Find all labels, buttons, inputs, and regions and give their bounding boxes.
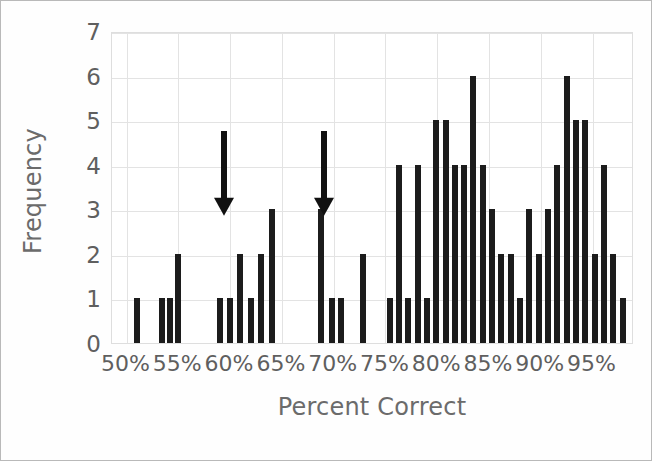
gridline-vertical xyxy=(385,33,386,343)
y-axis-tick-label: 4 xyxy=(71,154,101,177)
x-axis-tick-label: 50% xyxy=(101,353,150,375)
histogram-bar xyxy=(433,120,439,343)
histogram-bar xyxy=(338,298,344,343)
gridline-horizontal xyxy=(112,122,632,123)
histogram-bar xyxy=(318,209,324,343)
histogram-bar xyxy=(498,254,504,343)
y-axis-tick-labels: 01234567 xyxy=(57,1,101,461)
gridline-horizontal xyxy=(112,78,632,79)
histogram-bar xyxy=(508,254,514,343)
histogram-bar xyxy=(443,120,449,343)
histogram-bar xyxy=(175,254,181,343)
histogram-bar xyxy=(360,254,366,343)
histogram-bar xyxy=(329,298,335,343)
histogram-bar xyxy=(396,165,402,343)
histogram-bar xyxy=(387,298,393,343)
histogram-bar xyxy=(545,209,551,343)
histogram-bar xyxy=(554,165,560,343)
y-axis-tick-label: 3 xyxy=(71,199,101,222)
x-axis-title: Percent Correct xyxy=(111,393,633,421)
histogram-bar xyxy=(248,298,254,343)
chart-figure: Frequency Percent Correct 01234567 50%55… xyxy=(0,0,652,461)
histogram-bar xyxy=(159,298,165,343)
histogram-bar xyxy=(610,254,616,343)
y-axis-tick-label: 7 xyxy=(71,21,101,44)
histogram-bar xyxy=(573,120,579,343)
histogram-bar xyxy=(227,298,233,343)
histogram-bar xyxy=(461,165,467,343)
histogram-bar xyxy=(601,165,607,343)
y-axis-title: Frequency xyxy=(19,51,47,331)
histogram-bar xyxy=(424,298,430,343)
gridline-vertical xyxy=(282,33,283,343)
x-axis-tick-label: 65% xyxy=(256,353,305,375)
y-axis-tick-label: 6 xyxy=(71,65,101,88)
plot-area xyxy=(111,32,633,344)
gridline-vertical xyxy=(127,33,128,343)
x-axis-tick-label: 70% xyxy=(308,353,357,375)
histogram-bar xyxy=(620,298,626,343)
histogram-bar xyxy=(582,120,588,343)
arrow-marker-1-icon xyxy=(211,131,237,216)
y-axis-tick-label: 0 xyxy=(71,333,101,356)
histogram-bar xyxy=(452,165,458,343)
x-axis-tick-label: 60% xyxy=(205,353,254,375)
gridline-horizontal xyxy=(112,33,632,34)
histogram-bar xyxy=(217,298,223,343)
histogram-bar xyxy=(167,298,173,343)
histogram-bar xyxy=(517,298,523,343)
x-axis-tick-label: 95% xyxy=(567,353,616,375)
histogram-bar xyxy=(470,76,476,343)
histogram-bar xyxy=(269,209,275,343)
arrow-marker-2-icon xyxy=(311,131,337,216)
histogram-bar xyxy=(480,165,486,343)
x-axis-tick-label: 90% xyxy=(515,353,564,375)
histogram-bar xyxy=(258,254,264,343)
histogram-bar xyxy=(415,165,421,343)
x-axis-tick-label: 75% xyxy=(360,353,409,375)
x-axis-tick-label: 85% xyxy=(464,353,513,375)
y-axis-tick-label: 1 xyxy=(71,288,101,311)
histogram-bar xyxy=(526,209,532,343)
histogram-bar xyxy=(536,254,542,343)
histogram-bar xyxy=(564,76,570,343)
histogram-bar xyxy=(592,254,598,343)
histogram-bar xyxy=(405,298,411,343)
y-axis-tick-label: 2 xyxy=(71,243,101,266)
x-axis-tick-labels: 50%55%60%65%70%75%80%85%90%95% xyxy=(111,353,633,387)
x-axis-tick-label: 55% xyxy=(153,353,202,375)
histogram-bar xyxy=(237,254,243,343)
histogram-bar xyxy=(489,209,495,343)
y-axis-tick-label: 5 xyxy=(71,110,101,133)
x-axis-tick-label: 80% xyxy=(412,353,461,375)
histogram-bar xyxy=(134,298,140,343)
